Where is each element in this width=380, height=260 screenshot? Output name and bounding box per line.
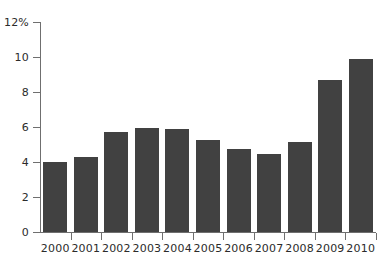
- x-axis-tick-label: 2005: [191, 243, 225, 255]
- bar: [227, 149, 251, 232]
- x-axis-tick-mark: [132, 233, 133, 240]
- y-axis-tick-mark: [33, 22, 40, 23]
- bar: [349, 59, 373, 232]
- y-axis-tick-label: 6: [22, 122, 29, 133]
- y-axis-tick-mark: [33, 127, 40, 128]
- y-axis-tick-mark: [33, 162, 40, 163]
- x-axis-tick-label: 2007: [252, 243, 286, 255]
- x-axis-tick-mark: [284, 233, 285, 240]
- x-axis-tick-label: 2008: [283, 243, 317, 255]
- x-axis-tick-label: 2002: [99, 243, 133, 255]
- y-axis-tick-label: 0: [22, 227, 29, 238]
- y-axis-tick-label: 10: [15, 52, 29, 63]
- bar: [135, 128, 159, 232]
- y-axis-tick-label: 2: [22, 192, 29, 203]
- x-axis-tick-label: 2009: [313, 243, 347, 255]
- bar: [43, 162, 67, 232]
- x-axis-tick-mark: [223, 233, 224, 240]
- x-axis-line: [40, 232, 376, 233]
- x-axis-tick-mark: [254, 233, 255, 240]
- bar: [196, 140, 220, 232]
- bar-chart: 024681012% 20002001200220032004200520062…: [0, 0, 380, 260]
- x-axis-tick-mark: [162, 233, 163, 240]
- y-axis-tick-mark: [33, 92, 40, 93]
- x-axis-tick-label: 2010: [344, 243, 378, 255]
- bar: [257, 154, 281, 232]
- y-axis-line: [40, 22, 41, 233]
- bar: [74, 157, 98, 232]
- y-axis-tick-label: 4: [22, 157, 29, 168]
- y-axis-tick-label: 12%: [4, 17, 29, 28]
- x-axis-end-tick-mark: [376, 233, 377, 240]
- y-axis-tick-label: 8: [22, 87, 29, 98]
- bar: [318, 80, 342, 232]
- bar: [288, 142, 312, 232]
- x-axis-tick-label: 2006: [222, 243, 256, 255]
- x-axis-tick-label: 2001: [69, 243, 103, 255]
- y-axis-tick-mark: [33, 57, 40, 58]
- x-axis-tick-mark: [101, 233, 102, 240]
- x-axis-tick-label: 2004: [160, 243, 194, 255]
- x-axis-tick-label: 2003: [130, 243, 164, 255]
- y-axis-tick-mark: [33, 197, 40, 198]
- x-axis-tick-mark: [345, 233, 346, 240]
- bar: [165, 129, 189, 232]
- x-axis-tick-mark: [315, 233, 316, 240]
- x-axis-tick-mark: [71, 233, 72, 240]
- x-axis-tick-mark: [193, 233, 194, 240]
- x-axis-tick-label: 2000: [38, 243, 72, 255]
- y-axis-tick-mark: [33, 232, 40, 233]
- bar: [104, 132, 128, 232]
